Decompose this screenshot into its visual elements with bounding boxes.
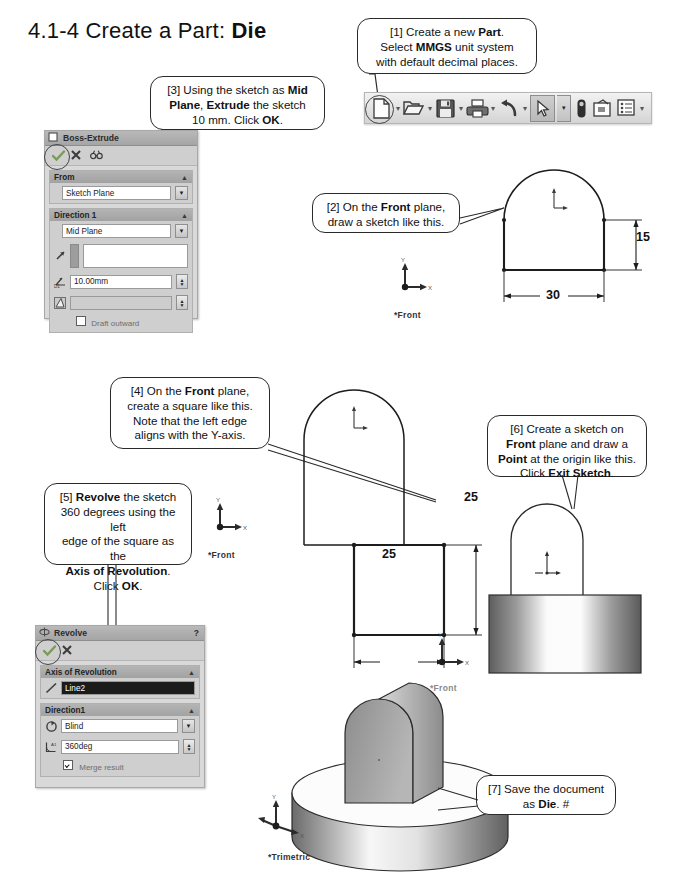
from-dropdown-arrow-icon[interactable]: ▼	[175, 186, 188, 200]
boss-extrude-icon	[48, 132, 60, 144]
direction-reference-field[interactable]	[83, 244, 188, 268]
svg-text:A1: A1	[51, 742, 57, 747]
svg-text:Y: Y	[438, 632, 442, 638]
boss-extrude-title: Boss-Extrude	[63, 133, 119, 143]
chevron-up-icon[interactable]: ▲	[181, 174, 188, 181]
open-document-icon[interactable]	[403, 96, 425, 120]
select-icon[interactable]	[530, 95, 556, 122]
draft-angle-field[interactable]	[70, 296, 172, 310]
revolve-direction1-header[interactable]: Direction1 ▲	[41, 704, 199, 716]
revolve-end-condition-value[interactable]: Blind	[61, 719, 178, 733]
print-icon[interactable]	[466, 96, 488, 120]
end-condition-value[interactable]: Mid Plane	[62, 224, 171, 238]
sketch2-width-dimension: 25	[382, 547, 396, 561]
callout-step-6: [6] Create a sketch onFront plane and dr…	[487, 415, 647, 477]
merge-result-row[interactable]: Merge result	[41, 757, 199, 776]
callout-step-2-line-1: [2] On the Front plane,	[321, 200, 451, 215]
callout-step-4: [4] On the Front plane,create a square l…	[110, 377, 270, 449]
callout-step-4-line-1: [4] On the Front plane,	[119, 384, 261, 399]
save-dropdown-arrow-icon[interactable]: ▾	[458, 104, 464, 113]
svg-text:X: X	[300, 833, 304, 839]
callout-step-6-line-1: [6] Create a sketch on	[496, 422, 638, 437]
depth-spinner[interactable]: ▲▼	[176, 274, 188, 289]
from-dropdown-value[interactable]: Sketch Plane	[62, 186, 171, 200]
draft-spinner[interactable]: ▲▼	[176, 295, 188, 310]
merge-result-label: Merge result	[79, 763, 123, 772]
sketch2-axis-triad: Y X	[210, 495, 254, 539]
options-dropdown-arrow-icon[interactable]: ▾	[639, 104, 645, 113]
new-document-highlight-ring	[365, 95, 394, 124]
revolve-end-condition-row[interactable]: Blind ▼	[41, 716, 199, 736]
reverse-direction-row[interactable]	[50, 241, 192, 271]
callout-step-5: [5] Revolve the sketch360 degrees using …	[44, 483, 192, 565]
from-group-label: From	[54, 173, 74, 182]
chevron-up-icon[interactable]: ▲	[181, 212, 188, 219]
revolve-angle-row[interactable]: A1 360deg ▲▼	[41, 736, 199, 757]
page-title-prefix: 4.1-4 Create a Part:	[28, 18, 232, 43]
file-properties-icon[interactable]	[591, 96, 613, 120]
direction-reference-swatch[interactable]	[70, 244, 79, 268]
model-trimetric-axis-triad: Y X	[258, 790, 314, 846]
end-condition-row[interactable]: Mid Plane ▼	[50, 221, 192, 241]
sketch1-width-dimension: 30	[546, 288, 560, 302]
open-dropdown-arrow-icon[interactable]: ▾	[427, 104, 433, 113]
callout-step-4-line-4: aligns with the Y-axis.	[119, 428, 261, 443]
callout-step-3-line-3: 10 mm. Click OK.	[159, 113, 316, 128]
axis-selection-value[interactable]: Line2	[61, 681, 195, 695]
undo-icon[interactable]	[498, 96, 520, 120]
callout-step-6-line-4: Click Exit Sketch.	[496, 466, 638, 481]
depth-value[interactable]: 10.00mm	[70, 275, 172, 289]
select-dropdown-arrow-icon[interactable]: ▾	[557, 95, 571, 122]
callout-step-1: [1] Create a new Part.Select MMGS unit s…	[357, 18, 537, 74]
print-dropdown-arrow-icon[interactable]: ▾	[490, 104, 496, 113]
svg-text:Y: Y	[216, 497, 220, 503]
revolve-toolstrip[interactable]	[36, 641, 204, 661]
model-front-view	[485, 495, 675, 695]
draft-outward-row[interactable]: Draft outward	[50, 313, 192, 332]
direction1-group-header[interactable]: Direction 1 ▲	[50, 209, 192, 221]
callout-step-5-line-2: 360 degrees using the left	[53, 505, 183, 535]
save-icon[interactable]	[435, 96, 457, 120]
callout-step-5-line-4: Axis of Revolution.	[53, 564, 183, 579]
revolve-angle-spinner[interactable]: ▲▼	[183, 739, 195, 754]
draft-icon[interactable]	[54, 297, 66, 309]
reverse-direction-arrow-icon[interactable]	[54, 250, 66, 262]
from-group: From ▲ Sketch Plane ▼	[49, 170, 193, 204]
sketch2-plane-label: *Front	[208, 550, 235, 560]
svg-text:Y: Y	[272, 794, 276, 800]
chevron-up-icon[interactable]: ▲	[188, 669, 195, 676]
axis-selection-row[interactable]: Line2	[41, 678, 199, 698]
new-dropdown-arrow-icon[interactable]: ▾	[395, 104, 401, 113]
from-row[interactable]: Sketch Plane ▼	[50, 183, 192, 203]
depth-row[interactable]: D1 10.00mm ▲▼	[50, 271, 192, 292]
sketch1-plane-label: *Front	[394, 310, 421, 320]
page-title: 4.1-4 Create a Part: Die	[28, 18, 266, 44]
from-group-header[interactable]: From ▲	[50, 171, 192, 183]
end-condition-dropdown-arrow-icon[interactable]: ▼	[175, 224, 188, 238]
rebuild-icon[interactable]	[573, 96, 589, 120]
callout-step-7-line-1: [7] Save the document	[485, 782, 607, 797]
direction1-group-label: Direction 1	[54, 211, 96, 220]
cancel-x-icon[interactable]	[62, 645, 74, 657]
sketch1-height-dimension: 15	[636, 230, 650, 244]
preview-glasses-icon[interactable]	[90, 150, 102, 162]
merge-result-checkbox[interactable]	[63, 760, 73, 770]
help-question-icon[interactable]: ?	[194, 628, 201, 638]
draft-outward-checkbox[interactable]	[76, 316, 86, 326]
options-icon[interactable]	[615, 96, 637, 120]
revolve-direction1-label: Direction1	[45, 706, 85, 715]
callout-step-3-line-1: [3] Using the sketch as Mid	[159, 83, 316, 98]
chevron-up-icon[interactable]: ▲	[188, 707, 195, 714]
svg-text:D1: D1	[54, 284, 60, 289]
undo-dropdown-arrow-icon[interactable]: ▾	[522, 104, 528, 113]
draft-row[interactable]: ▲▼	[50, 292, 192, 313]
revolve-angle-value[interactable]: 360deg	[61, 740, 179, 754]
axis-of-revolution-header[interactable]: Axis of Revolution ▲	[41, 666, 199, 678]
revolve-direction1-group: Direction1 ▲ Blind ▼ A1 360deg ▲▼ Merge …	[40, 703, 200, 777]
boss-extrude-titlebar: Boss-Extrude	[45, 131, 197, 146]
cancel-x-icon[interactable]	[71, 150, 83, 162]
standard-toolbar[interactable]: ▾ ▾ ▾ ▾ ▾ ▾ ▾	[364, 92, 652, 124]
callout-step-5-line-1: [5] Revolve the sketch	[53, 490, 183, 505]
revolve-end-condition-dropdown-arrow-icon[interactable]: ▼	[182, 719, 195, 733]
revolve-direction-icon[interactable]	[45, 720, 57, 732]
